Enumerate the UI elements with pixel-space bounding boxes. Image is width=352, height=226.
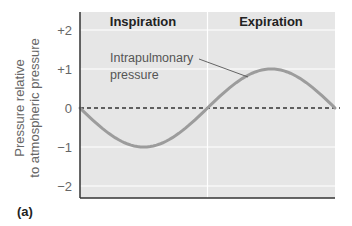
annotation-line-2: pressure <box>110 68 159 82</box>
phase-label-inspiration: Inspiration <box>110 14 177 29</box>
y-axis-label-container: Pressure relative to atmospheric pressur… <box>2 48 52 168</box>
chart: Inspiration Expiration Intrapulmonary pr… <box>0 0 352 226</box>
y-tick-label: +1 <box>57 62 72 77</box>
y-tick-label: 0 <box>65 101 72 116</box>
y-tick-label: −1 <box>57 140 72 155</box>
y-tick-labels: +2+10−1−2 <box>57 23 72 194</box>
y-tick-label: −2 <box>57 179 72 194</box>
y-axis-label: Pressure relative to atmospheric pressur… <box>12 38 42 177</box>
phase-label-expiration: Expiration <box>239 14 303 29</box>
y-tick-label: +2 <box>57 23 72 38</box>
annotation-line-1: Intrapulmonary <box>110 51 194 65</box>
y-axis-label-line-1: Pressure relative <box>12 38 27 177</box>
y-axis-label-line-2: to atmospheric pressure <box>27 38 42 177</box>
panel-label: (a) <box>17 204 33 219</box>
